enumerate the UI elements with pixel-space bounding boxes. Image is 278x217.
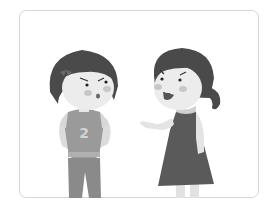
right-girl <box>140 48 220 200</box>
pants <box>68 158 101 198</box>
illustration: 2 <box>0 0 278 217</box>
left-girl: 2 <box>50 50 118 198</box>
jersey-number: 2 <box>79 125 89 141</box>
pointing-arm <box>140 118 174 130</box>
